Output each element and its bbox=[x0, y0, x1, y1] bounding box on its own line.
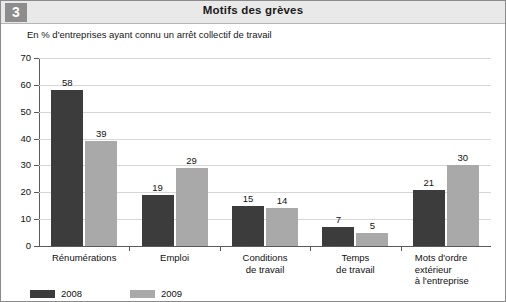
gridline bbox=[39, 85, 491, 86]
gridline bbox=[39, 58, 491, 59]
bar bbox=[51, 90, 83, 246]
y-tick-label: 40 bbox=[3, 133, 31, 144]
y-tick-mark bbox=[34, 112, 39, 113]
y-tick-label: 70 bbox=[3, 52, 31, 63]
legend-label: 2009 bbox=[161, 288, 182, 299]
legend-item: 2008 bbox=[30, 284, 82, 296]
legend-swatch bbox=[30, 290, 55, 298]
chart-subtitle: En % d'entreprises ayant connu un arrêt … bbox=[27, 29, 272, 40]
bar bbox=[322, 227, 354, 246]
y-tick-mark bbox=[34, 139, 39, 140]
chart-header: 3 Motifs des grèves bbox=[1, 1, 505, 24]
gridline bbox=[39, 112, 491, 113]
category-label: Rénumérations bbox=[39, 252, 129, 264]
y-tick-mark bbox=[34, 85, 39, 86]
bar bbox=[176, 168, 208, 246]
category-label-line: Emploi bbox=[130, 252, 220, 264]
x-tick-mark bbox=[401, 246, 402, 251]
bar-value-label: 58 bbox=[50, 77, 84, 88]
category-label-line: Mots d'ordre bbox=[415, 252, 505, 264]
y-tick-label: 0 bbox=[3, 240, 31, 251]
category-label: Tempsde travail bbox=[310, 252, 400, 275]
bar-value-label: 29 bbox=[175, 155, 209, 166]
category-label: Mots d'ordreextérieurà l'entreprise bbox=[415, 252, 505, 287]
bar bbox=[356, 233, 388, 246]
x-tick-mark bbox=[220, 246, 221, 251]
bar bbox=[266, 208, 298, 246]
y-tick-mark bbox=[34, 219, 39, 220]
category-label-line: Conditions bbox=[220, 252, 310, 264]
bar-value-label: 5 bbox=[355, 220, 389, 231]
bar-value-label: 21 bbox=[412, 177, 446, 188]
bar-value-label: 30 bbox=[446, 152, 480, 163]
legend-label: 2008 bbox=[61, 288, 82, 299]
y-tick-label: 50 bbox=[3, 106, 31, 117]
y-tick-mark bbox=[34, 58, 39, 59]
bar bbox=[232, 206, 264, 246]
y-tick-label: 60 bbox=[3, 79, 31, 90]
bar-value-label: 7 bbox=[321, 214, 355, 225]
category-label-line: à l'entreprise bbox=[415, 275, 505, 287]
bar-value-label: 15 bbox=[231, 193, 265, 204]
y-tick-mark bbox=[34, 192, 39, 193]
category-label: Emploi bbox=[130, 252, 220, 264]
y-tick-mark bbox=[34, 246, 39, 247]
category-label-line: de travail bbox=[310, 264, 400, 276]
bar bbox=[413, 190, 445, 246]
x-tick-mark bbox=[310, 246, 311, 251]
chart-title: Motifs des grèves bbox=[1, 4, 505, 16]
chart-figure: 3 Motifs des grèves En % d'entreprises a… bbox=[0, 0, 506, 302]
bar-value-label: 19 bbox=[141, 182, 175, 193]
bar bbox=[85, 141, 117, 246]
legend-item: 2009 bbox=[130, 284, 182, 296]
y-tick-mark bbox=[34, 165, 39, 166]
y-tick-label: 10 bbox=[3, 213, 31, 224]
bar-value-label: 14 bbox=[265, 195, 299, 206]
y-tick-label: 30 bbox=[3, 159, 31, 170]
category-label-line: Rénumérations bbox=[39, 252, 129, 264]
x-tick-mark bbox=[129, 246, 130, 251]
y-tick-label: 20 bbox=[3, 186, 31, 197]
legend-swatch bbox=[130, 290, 155, 298]
category-label: Conditionsde travail bbox=[220, 252, 310, 275]
x-axis-line bbox=[39, 246, 491, 247]
bar bbox=[142, 195, 174, 246]
category-label-line: de travail bbox=[220, 264, 310, 276]
category-label-line: extérieur bbox=[415, 264, 505, 276]
bar-value-label: 39 bbox=[84, 128, 118, 139]
category-label-line: Temps bbox=[310, 252, 400, 264]
bar bbox=[447, 165, 479, 246]
